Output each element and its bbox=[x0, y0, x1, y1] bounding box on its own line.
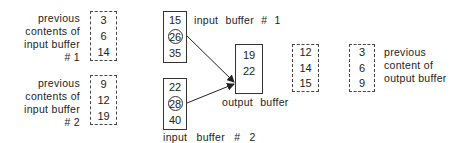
arrow-from-input-1 bbox=[187, 36, 234, 82]
arrows bbox=[0, 0, 468, 143]
arrow-from-input-2 bbox=[187, 84, 234, 103]
